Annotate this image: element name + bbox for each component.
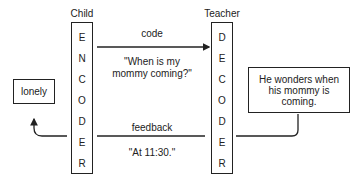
decoder-letter: O [212, 95, 232, 106]
receiver-state-line: He wonders when [259, 74, 339, 85]
feedback-message: "At 11:30." [100, 147, 204, 158]
encoder-box: E N C O D E R [71, 22, 93, 174]
encoder-letter: C [72, 74, 92, 85]
encoder-letter: R [72, 158, 92, 169]
encoder-letter: D [72, 116, 92, 127]
sender-state-text: lonely [21, 86, 47, 97]
encoder-letter: O [72, 95, 92, 106]
decoder-letter: E [212, 137, 232, 148]
code-message: "When is my mommy coming?" [100, 56, 204, 80]
encoder-letter: N [72, 53, 92, 64]
code-message-line: mommy coming?" [100, 68, 204, 80]
decoder-letter: D [212, 116, 232, 127]
feedback-label: feedback [110, 122, 194, 133]
decoder-box: D E C O D E R [211, 22, 233, 174]
sender-state-box: lonely [13, 79, 55, 104]
receiver-state-box: He wonders when his mommy is coming. [248, 67, 350, 113]
decoder-letter: C [212, 74, 232, 85]
decoder-letter: E [212, 53, 232, 64]
encoder-letter: E [72, 32, 92, 43]
feedback-arrow-left [34, 119, 67, 136]
code-label: code [110, 28, 194, 39]
receiver-state-line: his mommy is [268, 85, 329, 96]
feedback-line-right [236, 114, 298, 136]
encoder-letter: E [72, 137, 92, 148]
decoder-letter: D [212, 32, 232, 43]
receiver-state-line: coming. [281, 96, 316, 107]
receiver-title: Teacher [196, 8, 248, 19]
decoder-letter: R [212, 158, 232, 169]
sender-title: Child [62, 8, 102, 19]
code-message-line: "When is my [100, 56, 204, 68]
